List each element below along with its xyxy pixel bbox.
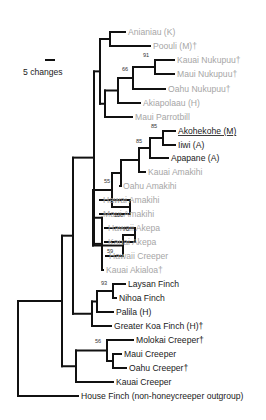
leaf-label-oahu-amakihi: Oahu Amakihi	[123, 181, 177, 191]
leaf-label-maui-amakihi: Maui Amakihi	[103, 209, 154, 219]
leaf-labels: Anianiau (K)Poouli (M)†Kauai Nukupuu†Mau…	[81, 27, 244, 401]
leaf-label-akiapolaau: Akiapolaau (H)	[143, 98, 200, 108]
leaf-label-hawai-amakihi: Hawai Amakihi	[103, 195, 159, 205]
leaf-label-kauai-nukupuu: Kauai Nukupuu†	[177, 55, 241, 65]
leaf-label-palila: Palila (H)	[116, 307, 151, 317]
leaf-label-maui-parrotbill: Maui Parrotbill	[135, 112, 190, 122]
leaf-label-kauai-amakihi: Kauai Amakihi	[148, 167, 203, 177]
bootstrap-hawai-maui-amakihi: 100	[114, 212, 123, 218]
leaf-label-molokai-creeper: Molokai Creeper†	[136, 335, 204, 345]
leaf-label-iiwi: Iiwi (A)	[178, 140, 204, 150]
leaf-label-house-finch: House Finch (non-honeycreeper outgroup)	[81, 391, 244, 401]
leaf-label-kauai-akepa: Kauai Akepa	[108, 237, 156, 247]
bootstrap-akohekohe-iiwi: 85	[151, 123, 157, 129]
leaf-label-oahu-nukupuu: Oahu Nukupuu†	[168, 84, 231, 94]
leaf-label-hawaii-creeper: Hawaii Creeper	[109, 251, 168, 261]
bootstrap-molokai-maui-oahu-creeper: 56	[95, 338, 101, 344]
leaf-label-poouli: Poouli (M)†	[153, 41, 197, 51]
leaf-label-laysan-finch: Laysan Finch	[128, 279, 179, 289]
leaf-label-maui-creeper: Maui Creeper	[124, 349, 176, 359]
bootstrap-laysan-nihoa: 93	[101, 280, 107, 286]
leaf-label-anianiau: Anianiau (K)	[128, 27, 175, 37]
leaf-label-maui-nukupuu: Maui Nukupuu†	[177, 69, 237, 79]
bootstrap-nukupuu-kauai-maui: 91	[143, 52, 149, 58]
leaf-label-nihoa-finch: Nihoa Finch	[119, 293, 165, 303]
leaf-label-kauai-akialoa: Kauai Akialoa†	[106, 265, 163, 275]
leaf-label-kauai-creeper: Kauai Creeper	[116, 377, 172, 387]
bootstrap-akepa-pair: 70	[123, 226, 129, 232]
bootstrap-akohekohe-iiwi-apapane: 85	[136, 138, 142, 144]
leaf-label-apapane: Apapane (A)	[171, 153, 219, 163]
leaf-label-oahu-creeper: Oahu Creeper†	[129, 363, 188, 373]
bootstrap-nukupuu-clade: 66	[122, 66, 128, 72]
leaf-label-akohekohe: Akohekohe (M)	[178, 126, 236, 136]
bootstrap-amakihi-group: 55	[104, 178, 110, 184]
bootstrap-akepa-creeper: 59	[107, 248, 113, 254]
scale-bar-label: 5 changes	[23, 67, 63, 77]
leaf-label-greater-koa-finch: Greater Koa Finch (H)†	[114, 321, 204, 331]
leaf-label-hawaii-akepa: Hawaii Akepa	[108, 223, 160, 233]
phylogenetic-tree: 5 changes Anianiau (K)Poouli (M)†Kauai N…	[0, 0, 266, 420]
